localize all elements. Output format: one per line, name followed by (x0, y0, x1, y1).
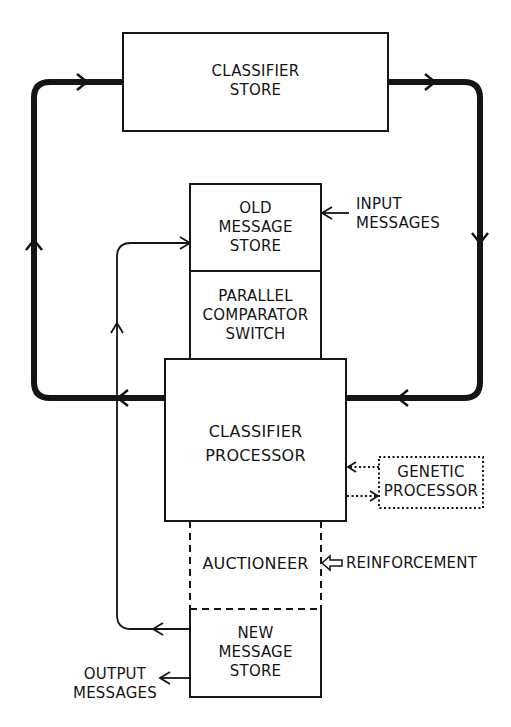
new-message-store-label: NEW MESSAGE STORE (190, 624, 321, 681)
hollow-arrow-left-icon (322, 556, 342, 570)
parallel-comparator-switch-label: PARALLEL COMPARATOR SWITCH (190, 287, 321, 344)
genetic-processor-arrows (347, 462, 379, 501)
auctioneer-label: AUCTIONEER (190, 554, 321, 573)
classifier-store-label: CLASSIFIER STORE (123, 62, 388, 100)
diagram-canvas (0, 0, 511, 727)
input-messages-label: INPUT MESSAGES (356, 195, 456, 233)
reinforcement-arrow (322, 556, 342, 570)
output-messages-arrow (160, 672, 190, 684)
input-messages-arrow (322, 207, 349, 219)
genetic-processor-label: GENETIC PROCESSOR (379, 463, 483, 501)
classifier-processor-label: CLASSIFIER PROCESSOR (165, 420, 346, 468)
reinforcement-label: REINFORCEMENT (346, 554, 496, 573)
old-message-store-label: OLD MESSAGE STORE (190, 199, 321, 256)
output-messages-label: OUTPUT MESSAGES (70, 665, 160, 703)
